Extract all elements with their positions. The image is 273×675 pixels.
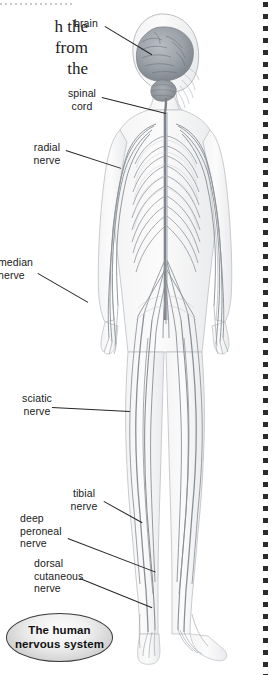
label-brain: brain: [64, 17, 108, 30]
label-median-nerve: median nerve: [0, 256, 52, 281]
label-deep-peroneal-nerve: deep peroneal nerve: [20, 512, 80, 550]
caption-oval: The human nervous system: [6, 613, 113, 662]
page-root: h the from the: [0, 0, 273, 675]
label-tibial-nerve: tibial nerve: [62, 487, 106, 512]
vertical-dot-column: [262, 0, 269, 675]
label-spinal-cord: spinal cord: [60, 87, 104, 112]
body-text-line-2: from: [0, 37, 92, 58]
dotted-rule-top: [0, 3, 72, 5]
nervous-system-illustration: [96, 8, 246, 668]
label-radial-nerve: radial nerve: [24, 141, 70, 166]
label-sciatic-nerve: sciatic nerve: [14, 392, 60, 417]
body-text-line-3: the: [0, 58, 92, 79]
label-dorsal-cutaneous-nerve: dorsal cutaneous nerve: [34, 557, 100, 595]
caption-text: The human nervous system: [15, 624, 104, 651]
